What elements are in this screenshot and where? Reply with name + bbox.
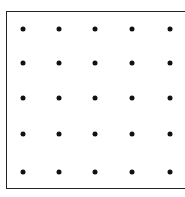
grid-dot: [130, 132, 135, 137]
grid-dot: [21, 61, 26, 66]
grid-dot: [57, 61, 62, 66]
grid-dot: [93, 96, 98, 101]
grid-dot: [21, 132, 26, 137]
grid-dot: [130, 27, 135, 32]
grid-dot: [57, 27, 62, 32]
grid-dot: [168, 61, 173, 66]
grid-dot: [57, 170, 62, 175]
grid-dot: [130, 170, 135, 175]
grid-dot: [21, 170, 26, 175]
grid-dot: [130, 96, 135, 101]
grid-dot: [168, 96, 173, 101]
grid-dot: [168, 27, 173, 32]
grid-dot: [168, 170, 173, 175]
grid-dot: [93, 170, 98, 175]
grid-dot: [57, 96, 62, 101]
grid-dot: [130, 61, 135, 66]
grid-dot: [93, 61, 98, 66]
grid-dot: [93, 27, 98, 32]
grid-dot: [93, 132, 98, 137]
grid-dot: [21, 27, 26, 32]
grid-dot: [21, 96, 26, 101]
grid-dot: [57, 132, 62, 137]
grid-dot: [168, 132, 173, 137]
